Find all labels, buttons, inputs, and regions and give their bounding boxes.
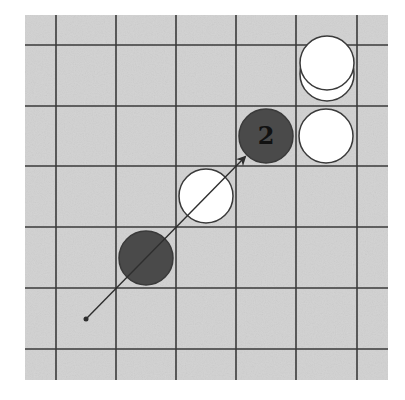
white-stone-white-right: [299, 109, 353, 163]
go-diagram: 2: [0, 0, 405, 400]
move-number-label: 2: [258, 121, 275, 150]
black-stone-black-numbered: 2: [239, 109, 293, 163]
board-canvas: 2: [0, 0, 405, 400]
stone-disc: [299, 109, 353, 163]
white-stone-white-stacked-upper: [300, 36, 354, 90]
stone-disc: [300, 36, 354, 90]
